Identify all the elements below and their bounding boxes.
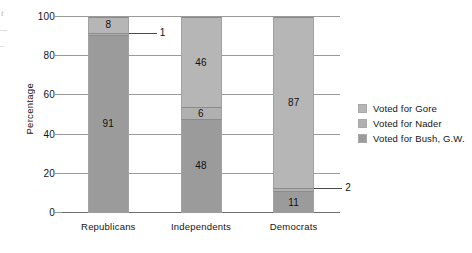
bar-segment[interactable]: 6	[181, 107, 222, 119]
y-tick-mark	[55, 94, 62, 95]
bar-segment[interactable]: 91	[88, 35, 129, 213]
bar-value-label: 91	[89, 119, 128, 129]
y-tick-label: 40	[43, 128, 55, 139]
legend-label-gore: Voted for Gore	[373, 103, 437, 114]
y-axis-title: Percentage	[24, 83, 36, 135]
bar-segment[interactable]: 11	[273, 191, 314, 213]
legend-item-nader[interactable]: Voted for Nader	[358, 116, 465, 131]
bar-segment[interactable]: 46	[181, 17, 222, 107]
chart-legend: Voted for Gore Voted for Nader Voted for…	[358, 101, 465, 146]
y-tick-label: 80	[43, 50, 55, 61]
y-tick-mark	[55, 16, 62, 17]
bar-value-label: 48	[182, 161, 221, 171]
y-tick-label: 20	[43, 167, 55, 178]
bar-value-label: 8	[89, 20, 128, 30]
bar-segment[interactable]	[88, 33, 129, 35]
y-tick-mark	[55, 212, 62, 213]
bar-segment[interactable]: 48	[181, 119, 222, 213]
plot-area: 0204060801009118Republicans48646Independ…	[62, 17, 340, 213]
callout-leader-line	[129, 33, 157, 34]
y-tick-label: 60	[43, 89, 55, 100]
bar-republicans[interactable]: 9118Republicans	[88, 17, 129, 213]
legend-swatch-bush	[358, 134, 367, 143]
bar-value-label: 87	[274, 98, 313, 108]
bar-independents[interactable]: 48646Independents	[181, 17, 222, 213]
legend-item-bush[interactable]: Voted for Bush, G.W.	[358, 131, 465, 146]
y-tick-mark	[55, 134, 62, 135]
bar-segment[interactable]: 87	[273, 17, 314, 188]
stacked-bar-chart: Percentage 0204060801009118Republicans48…	[0, 0, 472, 253]
bar-value-label: 6	[182, 109, 221, 119]
bar-segment[interactable]	[273, 188, 314, 192]
y-tick-label: 0	[49, 207, 55, 218]
bar-segment[interactable]: 8	[88, 17, 129, 33]
legend-label-nader: Voted for Nader	[373, 118, 442, 129]
bar-value-label: 1	[160, 27, 166, 37]
legend-swatch-gore	[358, 104, 367, 113]
bar-value-label: 11	[274, 198, 313, 208]
legend-swatch-nader	[358, 119, 367, 128]
bar-value-label: 2	[345, 183, 351, 193]
bar-democrats[interactable]: 11287Democrats	[273, 17, 314, 213]
callout-leader-line	[314, 188, 342, 189]
y-tick-label: 100	[38, 11, 55, 22]
legend-label-bush: Voted for Bush, G.W.	[373, 133, 465, 144]
y-tick-mark	[55, 173, 62, 174]
y-tick-mark	[55, 55, 62, 56]
x-tick-label: Democrats	[239, 221, 349, 232]
bar-value-label: 46	[182, 58, 221, 68]
legend-item-gore[interactable]: Voted for Gore	[358, 101, 465, 116]
